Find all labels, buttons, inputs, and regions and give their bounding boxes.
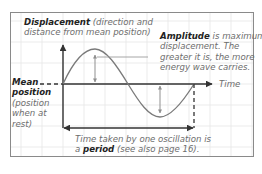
period-label: Time taken by one oscillation is a perio… [75, 134, 211, 155]
time-label: Time [219, 79, 240, 89]
displacement-label: Displacement (direction and distance fro… [24, 17, 153, 38]
mean-position-label: Mean position (position when at rest) [12, 77, 51, 129]
amplitude-label: Amplitude is maximum displacement. The g… [160, 31, 262, 73]
